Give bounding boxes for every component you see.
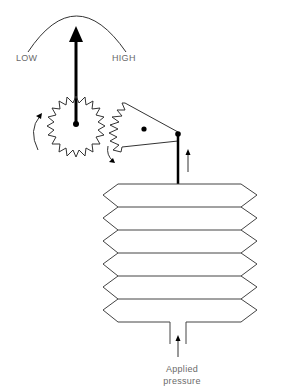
low-label: LOW (16, 53, 37, 63)
pinion-pivot (73, 121, 79, 127)
applied-pressure-label: Applied pressure (160, 363, 204, 387)
rotation-arrow-right-icon (108, 146, 115, 163)
rotation-arrow-left-icon (33, 113, 42, 150)
motion-up-arrow-icon (186, 149, 191, 172)
applied-pressure-line1: Applied (160, 363, 204, 375)
pressure-arrow-icon (176, 335, 181, 357)
applied-pressure-line2: pressure (160, 375, 204, 387)
sector-pivot (141, 126, 146, 131)
gauge-diagram (0, 0, 283, 392)
high-label: HIGH (112, 53, 136, 63)
bellows (103, 184, 257, 344)
pointer-icon (69, 26, 83, 124)
